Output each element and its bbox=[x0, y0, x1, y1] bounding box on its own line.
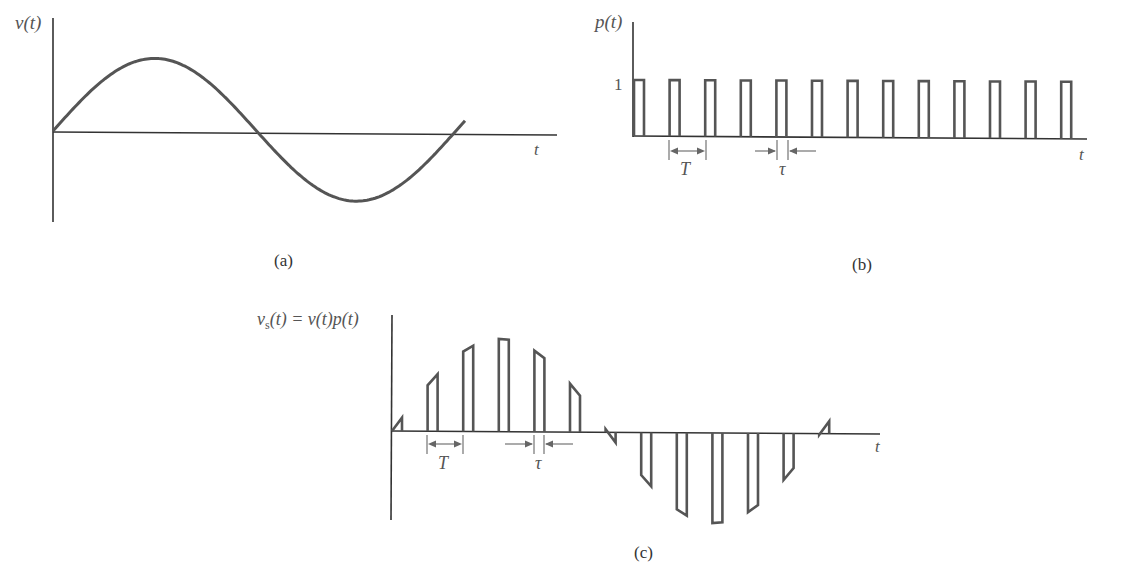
sampled-pulse bbox=[606, 429, 616, 442]
panel-b-xlabel: t bbox=[1079, 145, 1085, 164]
panel-b-ylabel: p(t) bbox=[593, 11, 622, 33]
pulse bbox=[848, 81, 858, 138]
sampled-pulse bbox=[641, 433, 651, 487]
panel-c: vs(t) = v(t)p(t) t T τ (c) bbox=[257, 309, 881, 562]
panel-b-pulse-train bbox=[634, 80, 1071, 139]
pulse bbox=[954, 81, 964, 138]
pulse bbox=[776, 81, 786, 137]
panel-c-xlabel: t bbox=[875, 437, 881, 456]
panel-b-period-label: T bbox=[680, 159, 692, 179]
pulse bbox=[990, 81, 1000, 138]
sampled-pulse bbox=[463, 346, 473, 432]
panel-a-caption: (a) bbox=[274, 251, 293, 270]
pulse bbox=[705, 80, 715, 136]
sampled-pulse bbox=[428, 374, 438, 431]
panel-a: v(t) t (a) bbox=[15, 12, 557, 270]
pulse bbox=[883, 81, 893, 138]
panel-c-period-marker bbox=[427, 435, 463, 454]
panel-b-width-marker bbox=[755, 140, 816, 160]
pulse bbox=[1026, 82, 1036, 139]
pulse bbox=[1061, 82, 1071, 139]
pulse bbox=[634, 80, 644, 136]
panel-c-x-axis bbox=[392, 431, 880, 434]
sampled-pulse bbox=[748, 433, 758, 512]
pulse bbox=[741, 80, 751, 136]
panel-b-level-label: 1 bbox=[614, 75, 623, 94]
sampled-pulse bbox=[570, 384, 580, 433]
panel-a-xlabel: t bbox=[534, 140, 540, 159]
panel-c-ylabel: vs(t) = v(t)p(t) bbox=[257, 309, 359, 332]
panel-b-width-label: τ bbox=[779, 159, 786, 179]
sampled-pulse bbox=[784, 433, 794, 480]
panel-b-period-marker bbox=[669, 140, 706, 160]
sampling-figure: v(t) t (a) 1 p(t) t T τ (b) bbox=[0, 0, 1144, 575]
sampled-pulse bbox=[534, 351, 544, 432]
panel-c-y-axis bbox=[391, 315, 392, 520]
panel-c-caption: (c) bbox=[634, 543, 653, 562]
pulse bbox=[919, 81, 929, 138]
panel-c-width-label: τ bbox=[535, 453, 542, 473]
sampled-pulse bbox=[712, 433, 722, 523]
panel-c-period-label: T bbox=[438, 453, 450, 473]
panel-b-caption: (b) bbox=[852, 255, 872, 274]
sampled-pulse bbox=[499, 339, 509, 432]
sampled-pulse bbox=[677, 433, 687, 516]
panel-b: 1 p(t) t T τ (b) bbox=[593, 11, 1087, 274]
sampled-pulse bbox=[819, 421, 829, 435]
pulse bbox=[670, 80, 680, 136]
panel-c-width-marker bbox=[505, 435, 573, 454]
panel-a-ylabel: v(t) bbox=[15, 12, 41, 34]
panel-a-sine-curve bbox=[53, 58, 465, 201]
panel-b-x-axis bbox=[633, 136, 1087, 139]
sampled-pulse bbox=[392, 418, 402, 431]
pulse bbox=[812, 81, 822, 137]
panel-a-x-axis bbox=[53, 132, 557, 135]
